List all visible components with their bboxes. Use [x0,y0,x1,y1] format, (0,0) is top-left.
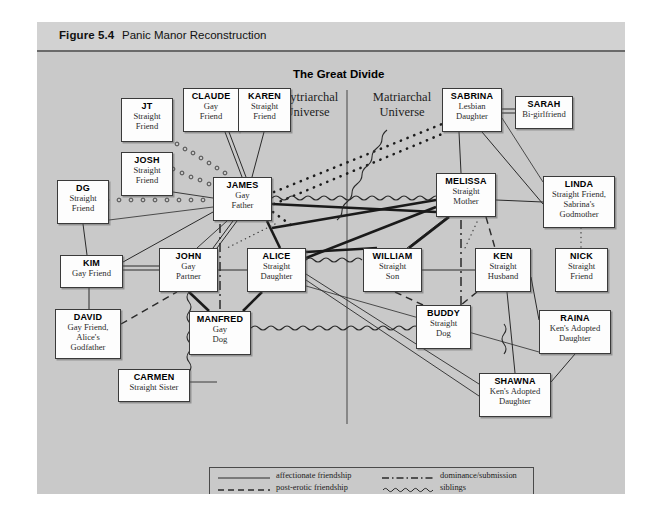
legend-label-dominance: dominance/submission [440,471,517,480]
node-sarah[interactable]: SARAH Bi-girlfriend [515,96,573,129]
legend-art-affectionate [216,472,272,484]
node-manfred-role2: Dog [190,334,250,344]
legend-art-post-erotic [216,484,272,494]
node-john-role2: Partner [160,271,217,281]
figure-number: Figure 5.4 [59,29,114,41]
node-raina-name: RAINA [540,313,610,323]
node-buddy-role1: Straight [417,318,470,328]
node-sabrina-role1: Lesbian [443,101,501,111]
node-sarah-role1: Bi-girlfriend [516,109,572,119]
node-ken-role2: Husband [476,271,530,281]
legend-art-dominance [380,472,436,484]
node-karen-name: KAREN [239,91,290,101]
node-jt-role1: Straight [122,111,172,121]
node-manfred-name: MANFRED [190,314,250,324]
matriarchal-universe-label: Matriarchal Universe [347,90,457,120]
node-josh-role2: Friend [122,175,172,185]
node-josh-name: JOSH [122,155,172,165]
legend-box: affectionate friendship post-erotic frie… [209,467,534,494]
legend-item-post-erotic: post-erotic friendship [214,484,374,494]
node-buddy-role2: Dog [417,328,470,338]
node-buddy[interactable]: BUDDY Straight Dog [416,305,471,349]
node-david-role3: Godfather [56,342,120,352]
node-karen[interactable]: KAREN Straight Friend [238,88,291,132]
node-linda-name: LINDA [544,179,614,189]
node-david-role1: Gay Friend, [56,322,120,332]
node-alice[interactable]: ALICE Straight Daughter [247,248,306,292]
node-sarah-name: SARAH [516,99,572,109]
node-david-role2: Alice's [56,332,120,342]
node-sabrina-name: SABRINA [443,91,501,101]
node-nick-role2: Friend [556,271,607,281]
node-james-name: JAMES [214,180,271,190]
node-claude-role1: Gay [184,101,238,111]
figure-title-bar: Figure 5.4 Panic Manor Reconstruction [37,22,625,52]
node-ken-role1: Straight [476,261,530,271]
node-william-name: WILLIAM [364,251,421,261]
node-linda[interactable]: LINDA Straight Friend, Sabrina's Godmoth… [543,176,615,228]
figure-frame: Figure 5.4 Panic Manor Reconstruction [37,22,625,494]
node-john[interactable]: JOHN Gay Partner [159,248,218,292]
node-shawna[interactable]: SHAWNA Ken's Adopted Daughter [479,373,551,417]
node-david-name: DAVID [56,312,120,322]
node-shawna-role2: Daughter [480,396,550,406]
node-dg-role2: Friend [58,203,108,213]
node-claude[interactable]: CLAUDE Gay Friend [183,88,239,132]
node-william[interactable]: WILLIAM Straight Son [363,248,422,292]
node-melissa-role2: Mother [437,196,495,206]
node-nick[interactable]: NICK Straight Friend [555,248,608,292]
node-dg-name: DG [58,183,108,193]
node-raina[interactable]: RAINA Ken's Adopted Daughter [539,310,611,354]
diagram-canvas: Gaytriarchal Universe Matriarchal Univer… [37,52,625,494]
node-james[interactable]: JAMES Gay Father [213,177,272,221]
node-alice-name: ALICE [248,251,305,261]
legend-label-post-erotic: post-erotic friendship [276,483,348,492]
node-kim-role1: Gay Friend [61,268,122,278]
node-manfred[interactable]: MANFRED Gay Dog [189,311,251,355]
node-carmen-role1: Straight Sister [119,382,189,392]
right-universe-line2: Universe [379,105,424,119]
node-william-role1: Straight [364,261,421,271]
node-manfred-role1: Gay [190,324,250,334]
node-karen-role1: Straight [239,101,290,111]
node-josh-role1: Straight [122,165,172,175]
legend-label-affectionate: affectionate friendship [276,471,351,480]
left-universe-line2: Universe [284,105,329,119]
node-william-role2: Son [364,271,421,281]
node-david[interactable]: DAVID Gay Friend, Alice's Godfather [55,309,121,359]
node-john-role1: Gay [160,261,217,271]
node-melissa[interactable]: MELISSA Straight Mother [436,173,496,217]
node-jt-role2: Friend [122,121,172,131]
node-melissa-name: MELISSA [437,176,495,186]
node-carmen-name: CARMEN [119,372,189,382]
figure-title: Panic Manor Reconstruction [122,29,266,41]
node-james-role2: Father [214,200,271,210]
node-buddy-name: BUDDY [417,308,470,318]
node-shawna-role1: Ken's Adopted [480,386,550,396]
node-nick-role1: Straight [556,261,607,271]
node-jt[interactable]: JT Straight Friend [121,98,173,142]
node-shawna-name: SHAWNA [480,376,550,386]
node-sabrina[interactable]: SABRINA Lesbian Daughter [442,88,502,132]
node-ken-name: KEN [476,251,530,261]
node-jt-name: JT [122,101,172,111]
node-john-name: JOHN [160,251,217,261]
legend-item-siblings: siblings [378,484,538,494]
node-claude-name: CLAUDE [184,91,238,101]
node-kim[interactable]: KIM Gay Friend [60,255,123,288]
node-karen-role2: Friend [239,111,290,121]
node-alice-role1: Straight [248,261,305,271]
legend-art-siblings [380,484,436,494]
node-melissa-role1: Straight [437,186,495,196]
node-ken[interactable]: KEN Straight Husband [475,248,531,292]
node-dg[interactable]: DG Straight Friend [57,180,109,224]
great-divide-label: The Great Divide [293,68,384,80]
node-james-role1: Gay [214,190,271,200]
node-josh[interactable]: JOSH Straight Friend [121,152,173,196]
node-carmen[interactable]: CARMEN Straight Sister [118,369,190,402]
node-claude-role2: Friend [184,111,238,121]
node-linda-role2: Sabrina's [544,199,614,209]
node-linda-role3: Godmother [544,209,614,219]
legend-column-left: affectionate friendship post-erotic frie… [214,472,374,494]
legend-column-right: dominance/submission siblings married pa… [378,472,538,494]
